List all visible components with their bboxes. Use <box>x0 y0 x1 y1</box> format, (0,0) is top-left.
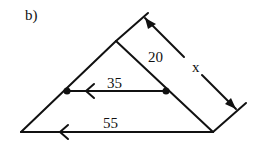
parallel-segment-label: 35 <box>107 76 122 91</box>
upper-segment-label: 20 <box>148 50 163 65</box>
left-side <box>21 41 116 132</box>
triangle-diagram: b) 20 x 35 55 <box>0 0 257 148</box>
point-right <box>163 88 170 95</box>
triangle-figure <box>0 0 257 148</box>
base-label: 55 <box>103 116 118 131</box>
side-length-label: x <box>192 60 200 75</box>
part-label: b) <box>25 8 38 23</box>
dimension-tick-top <box>116 13 148 41</box>
point-left <box>64 88 71 95</box>
dimension-tick-bottom <box>213 103 246 132</box>
right-side <box>116 41 213 132</box>
